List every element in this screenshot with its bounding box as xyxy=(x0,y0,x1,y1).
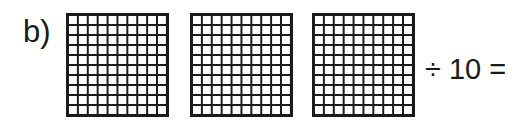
hundred-grid-1 xyxy=(66,13,169,117)
hundred-grid-2 xyxy=(190,13,293,117)
problem-label: b) xyxy=(23,14,51,50)
hundred-grid-3 xyxy=(312,13,415,117)
division-expression: ÷ 10 = xyxy=(425,52,506,86)
